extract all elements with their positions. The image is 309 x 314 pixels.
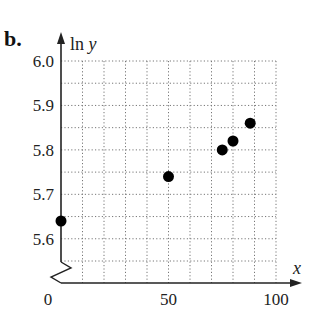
x-tick-labels: 050100 [44,290,289,309]
x-axis-arrow-icon [290,279,302,287]
y-axis-arrow-icon [57,32,65,44]
y-tick-labels: 5.65.75.85.96.0 [33,52,55,249]
y-tick-label: 5.8 [33,141,54,160]
data-point [56,216,67,227]
y-tick-label: 6.0 [33,52,54,71]
scatter-chart: 5.65.75.85.96.0 050100 ln y x [0,0,309,314]
axes [51,32,302,287]
data-point [163,171,174,182]
x-tick-label: 100 [263,290,289,309]
y-tick-label: 5.9 [33,96,54,115]
data-point [245,118,256,129]
data-point [217,144,228,155]
x-tick-label: 0 [44,290,53,309]
x-tick-label: 50 [160,290,177,309]
y-tick-label: 5.6 [33,230,54,249]
x-axis-label: x [292,258,301,278]
y-tick-label: 5.7 [33,185,55,204]
y-axis-label: ln y [70,34,97,54]
axis-break-icon [51,262,71,283]
data-point [228,136,239,147]
